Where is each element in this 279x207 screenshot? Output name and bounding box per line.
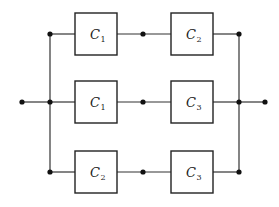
output-terminal-node (262, 99, 267, 104)
row-3-left-node (47, 169, 52, 174)
row-1-left-node (47, 31, 52, 36)
reliability-diagram: C1C2C1C3C2C3 (0, 0, 279, 207)
row-2-left-node (47, 99, 52, 104)
component-c2-box: C2 (75, 151, 117, 193)
row-3-mid-node (140, 169, 145, 174)
row-2-mid-node (140, 99, 145, 104)
component-c1-box: C1 (75, 13, 117, 55)
component-c3-box: C3 (171, 151, 213, 193)
row-3-right-node (236, 169, 241, 174)
row-2-right-node (236, 99, 241, 104)
diagram-canvas: C1C2C1C3C2C3 (0, 0, 279, 207)
junction-nodes (19, 31, 267, 174)
input-terminal-node (19, 99, 24, 104)
row-1-right-node (236, 31, 241, 36)
component-c1-box: C1 (75, 81, 117, 123)
component-c3-box: C3 (171, 81, 213, 123)
component-c2-box: C2 (171, 13, 213, 55)
row-1-mid-node (140, 31, 145, 36)
